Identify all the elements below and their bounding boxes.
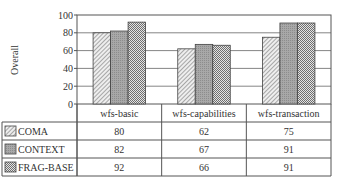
svg-text:Overall: Overall (9, 45, 20, 75)
table-cell-value: 92 (114, 162, 124, 173)
bar-context-wfs-transaction (280, 23, 298, 104)
y-tick-label: 40 (63, 63, 73, 74)
y-tick-label: 20 (63, 81, 73, 92)
y-tick-label: 60 (63, 45, 73, 56)
y-tick-label: 80 (63, 27, 73, 38)
legend-swatch (5, 144, 16, 154)
table-cell-value: 91 (284, 162, 294, 173)
bars (93, 22, 315, 104)
table-cell-value: 75 (284, 126, 294, 137)
bar-coma-wfs-transaction (262, 37, 280, 104)
category-label: wfs-basic (100, 108, 139, 119)
legend-label: COMA (18, 126, 49, 137)
table-cell-value: 91 (284, 144, 294, 155)
legend-swatch (5, 126, 16, 136)
bar-frag-base-wfs-capabilities (213, 45, 231, 104)
legend-swatch (5, 162, 16, 172)
legend-label: CONTEXT (18, 144, 65, 155)
table-cell-value: 67 (199, 144, 209, 155)
y-axis-label: Overall (9, 45, 20, 75)
bar-chart-with-data-table: Overall 020406080100 wfs-basicwfs-capabi… (0, 0, 337, 189)
table-cell-value: 80 (114, 126, 124, 137)
bar-coma-wfs-basic (93, 33, 111, 104)
bar-context-wfs-capabilities (195, 44, 213, 104)
bar-frag-base-wfs-transaction (297, 23, 315, 104)
y-axis-ticks: 020406080100 (58, 10, 77, 110)
category-label: wfs-capabilities (172, 108, 235, 119)
y-tick-label: 100 (58, 10, 73, 21)
table-cell-value: 82 (114, 144, 124, 155)
data-table: wfs-basicwfs-capabilitieswfs-transaction… (2, 104, 331, 176)
bar-context-wfs-basic (111, 31, 129, 104)
category-label: wfs-transaction (258, 108, 320, 119)
table-cell-value: 66 (199, 162, 209, 173)
bar-frag-base-wfs-basic (128, 22, 146, 104)
legend-label: FRAG-BASE (18, 162, 74, 173)
bar-coma-wfs-capabilities (178, 49, 196, 104)
table-cell-value: 62 (199, 126, 209, 137)
y-tick-label: 0 (68, 99, 73, 110)
